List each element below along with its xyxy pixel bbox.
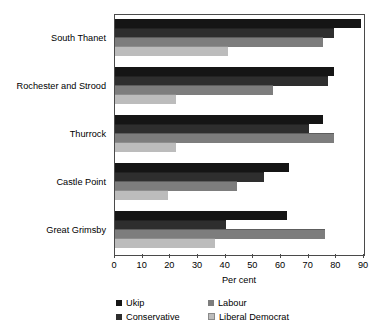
legend-label: Labour xyxy=(218,297,247,309)
bar-group xyxy=(115,207,364,255)
bar-libdem xyxy=(115,94,176,104)
bar-ukip xyxy=(115,19,361,28)
bar-ukip xyxy=(115,163,289,172)
bar-group xyxy=(115,111,364,159)
x-tick-label: 0 xyxy=(99,259,129,271)
x-tick-label: 30 xyxy=(182,259,212,271)
bar-group xyxy=(115,15,364,63)
x-tick-label: 10 xyxy=(127,259,157,271)
legend-item-conservative[interactable]: Conservative xyxy=(116,310,180,323)
category-label: Rochester and Strood xyxy=(0,81,106,91)
bar-ukip xyxy=(115,211,287,220)
category-label: Thurrock xyxy=(0,129,106,139)
x-tick-label: 90 xyxy=(348,259,378,271)
category-axis-labels: South ThanetRochester and StroodThurrock… xyxy=(0,14,110,254)
x-tick-mark xyxy=(280,254,281,258)
legend-label: Conservative xyxy=(126,311,180,323)
x-tick-mark xyxy=(252,254,253,258)
bar-ukip xyxy=(115,115,323,124)
chart-legend: UkipLabourConservativeLiberal Democrat xyxy=(116,296,316,324)
bar-ukip xyxy=(115,67,334,76)
category-label: Castle Point xyxy=(0,177,106,187)
legend-label: Liberal Democrat xyxy=(219,311,289,323)
x-tick-mark xyxy=(335,254,336,258)
x-axis-tick-labels: 0102030405060708090 xyxy=(0,259,379,273)
x-tick-label: 70 xyxy=(293,259,323,271)
x-tick-label: 60 xyxy=(265,259,295,271)
legend-item-labour[interactable]: Labour xyxy=(208,296,247,309)
category-label: Great Grimsby xyxy=(0,225,106,235)
legend-item-libdem[interactable]: Liberal Democrat xyxy=(208,310,289,323)
plot-area xyxy=(114,14,365,256)
bar-group xyxy=(115,63,364,111)
bar-group xyxy=(115,159,364,207)
x-tick-mark xyxy=(225,254,226,258)
legend-item-ukip[interactable]: Ukip xyxy=(116,296,144,309)
bar-chart: South ThanetRochester and StroodThurrock… xyxy=(0,0,379,330)
bar-libdem xyxy=(115,190,168,200)
legend-swatch-conservative-icon xyxy=(116,314,122,320)
x-tick-mark xyxy=(142,254,143,258)
x-tick-label: 80 xyxy=(320,259,350,271)
bar-libdem xyxy=(115,142,176,152)
x-tick-mark xyxy=(114,254,115,258)
x-tick-mark xyxy=(308,254,309,258)
x-tick-mark xyxy=(363,254,364,258)
category-label: South Thanet xyxy=(0,33,106,43)
legend-label: Ukip xyxy=(126,297,144,309)
x-tick-mark xyxy=(169,254,170,258)
x-tick-label: 40 xyxy=(210,259,240,271)
x-tick-label: 20 xyxy=(154,259,184,271)
legend-swatch-labour-icon xyxy=(208,300,214,306)
legend-swatch-ukip-icon xyxy=(116,300,122,306)
bar-libdem xyxy=(115,238,215,248)
bar-libdem xyxy=(115,46,228,56)
x-axis-title: Per cent xyxy=(114,274,364,286)
x-tick-label: 50 xyxy=(237,259,267,271)
x-tick-mark xyxy=(197,254,198,258)
legend-swatch-libdem-icon xyxy=(208,313,215,320)
bars-container xyxy=(115,15,364,255)
